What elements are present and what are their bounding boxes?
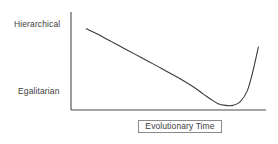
y-axis-top-label: Hierarchical xyxy=(14,19,60,29)
x-axis-title-box: Evolutionary Time xyxy=(138,120,222,133)
evolutionary-time-chart: Hierarchical Egalitarian Evolutionary Ti… xyxy=(0,0,278,144)
data-curve xyxy=(86,29,258,106)
x-axis-title-label: Evolutionary Time xyxy=(145,122,214,131)
y-axis-bottom-label: Egalitarian xyxy=(18,86,59,96)
